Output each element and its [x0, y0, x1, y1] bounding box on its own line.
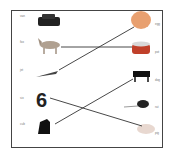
- match-lines: [50, 27, 142, 126]
- line-six-pig: [50, 98, 142, 126]
- car-icon: [38, 14, 60, 26]
- rat-icon: [124, 100, 149, 108]
- pot-icon: [132, 42, 150, 55]
- puppy-icon: [38, 119, 50, 134]
- fox-icon: [38, 38, 60, 54]
- line-crocodile-egg: [59, 27, 134, 70]
- crocodile-icon: [36, 71, 58, 77]
- dog-icon: [133, 71, 150, 82]
- egg-icon: [131, 11, 151, 29]
- line-cub-dog: [55, 79, 133, 124]
